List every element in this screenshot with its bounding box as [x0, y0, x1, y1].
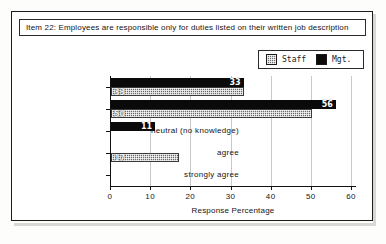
y-axis-tick: [106, 87, 110, 88]
bar-mgt: 11: [111, 122, 155, 131]
legend-swatch-staff-icon: [266, 54, 277, 65]
x-axis-line: [110, 186, 356, 187]
bar-staff: 33: [111, 87, 244, 96]
x-axis-tick: [231, 186, 232, 190]
x-axis-tick: [271, 186, 272, 190]
gridline: [271, 76, 272, 186]
x-axis-tick-label: 0: [108, 192, 113, 202]
bar-staff: 50: [111, 109, 312, 118]
x-axis-tick: [110, 186, 111, 190]
figure-container: Item 22: Employees are responsible only …: [0, 0, 386, 244]
legend-swatch-mgt-icon: [316, 54, 327, 65]
x-axis-tick-label: 50: [306, 192, 316, 202]
bar-mgt: 33: [111, 78, 244, 87]
legend-item-staff: Staff: [266, 54, 306, 65]
legend-label-staff: Staff: [282, 55, 306, 65]
x-axis-tick: [311, 186, 312, 190]
frame-shadow-right: [373, 14, 376, 224]
gridline: [351, 76, 352, 186]
x-axis-tick-label: 10: [145, 192, 155, 202]
bar-value-label: 50: [114, 110, 125, 119]
gridline: [311, 76, 312, 186]
bar-staff: 17: [111, 153, 179, 162]
bar-mgt: 56: [111, 100, 336, 109]
x-axis-tick: [150, 186, 151, 190]
bar-value-label: 33: [229, 78, 240, 87]
y-axis-label: neutral (no knowledge): [151, 126, 239, 136]
x-axis-tick-label: 40: [266, 192, 276, 202]
y-axis-label: agree: [217, 148, 239, 158]
chart-legend: Staff Mgt.: [258, 50, 364, 69]
y-axis-tick: [106, 109, 110, 110]
legend-item-mgt: Mgt.: [316, 54, 351, 65]
bar-value-label: 11: [141, 122, 152, 131]
y-axis-tick: [106, 153, 110, 154]
x-axis-tick-label: 60: [346, 192, 356, 202]
figure-title-box: Item 22: Employees are responsible only …: [19, 19, 366, 36]
frame-shadow-bottom: [14, 223, 376, 226]
y-axis-tick: [106, 131, 110, 132]
legend-label-mgt: Mgt.: [332, 55, 351, 65]
plot-area: strongly disagreedisagreeneutral (no kno…: [110, 76, 355, 186]
bar-value-label: 33: [114, 88, 125, 97]
x-axis-title: Response Percentage: [110, 206, 356, 216]
x-axis-tick-label: 30: [226, 192, 236, 202]
x-axis-tick: [190, 186, 191, 190]
x-axis-tick: [351, 186, 352, 190]
figure-title: Item 22: Employees are responsible only …: [26, 22, 349, 34]
bar-value-label: 17: [114, 154, 125, 163]
x-axis-tick-label: 20: [185, 192, 195, 202]
y-axis-tick: [106, 175, 110, 176]
bar-value-label: 56: [322, 100, 333, 109]
y-axis-label: strongly agree: [184, 170, 239, 180]
